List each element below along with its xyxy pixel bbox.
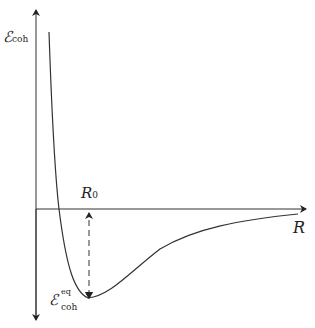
r0-label: R0 (81, 184, 98, 202)
x-axis-label: R (293, 218, 305, 237)
potential-curve-diagram (0, 0, 315, 328)
y-axis-label: ℰcoh (3, 28, 28, 46)
energy-curve (49, 32, 298, 298)
eq-energy-label: ℰ eq coh (49, 291, 89, 315)
